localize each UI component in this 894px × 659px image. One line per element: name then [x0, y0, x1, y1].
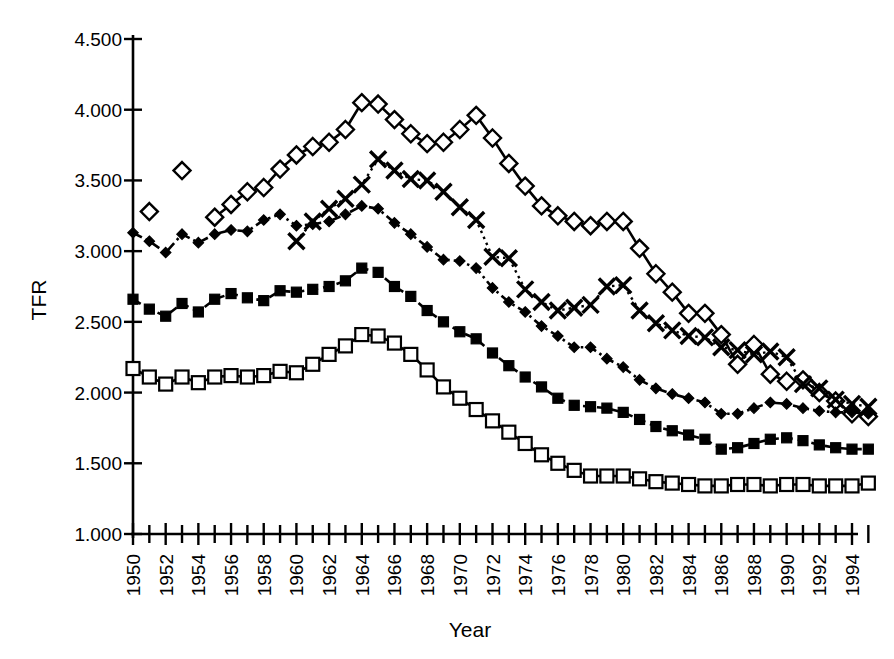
data-point-filled-square [389, 282, 399, 292]
data-point-open-square [192, 376, 205, 389]
x-tick-label: 1960 [286, 554, 307, 596]
data-point-open-square [290, 366, 303, 379]
data-point-cross [779, 349, 795, 365]
data-point-filled-square [455, 327, 465, 337]
chart-container: 4.5004.0003.5003.0002.5002.0001.5001.000… [0, 0, 894, 659]
x-tick-label: 1964 [352, 554, 373, 597]
x-tick-label: 1956 [221, 554, 242, 596]
data-point-open-square [159, 378, 172, 391]
x-tick-label: 1986 [711, 554, 732, 596]
data-point-cross [664, 322, 680, 338]
data-point-filled-square [700, 434, 710, 444]
data-point-filled-square [504, 361, 514, 371]
y-tick-label: 4.500 [74, 29, 122, 50]
data-point-open-square [698, 479, 711, 492]
data-point-open-square [225, 369, 238, 382]
data-point-open-diamond [304, 138, 321, 155]
x-axis-title: Year [449, 618, 491, 641]
data-point-filled-square [357, 263, 367, 273]
x-tick-label: 1958 [254, 554, 275, 596]
x-tick-label: 1994 [842, 554, 863, 597]
data-point-filled-diamond [830, 407, 840, 417]
data-point-open-diamond [762, 366, 779, 383]
data-point-filled-square [716, 444, 726, 454]
x-tick-label: 1952 [156, 554, 177, 596]
data-point-open-square [437, 380, 450, 393]
data-point-open-square [404, 348, 417, 361]
data-point-filled-square [635, 414, 645, 424]
x-tick-label: 1950 [123, 554, 144, 596]
data-point-open-square [846, 479, 859, 492]
data-point-filled-square [226, 289, 236, 299]
data-point-filled-square [733, 443, 743, 453]
data-point-open-square [421, 363, 434, 376]
data-point-filled-square [814, 440, 824, 450]
data-point-open-square [600, 470, 613, 483]
y-tick-label: 1.000 [74, 524, 122, 545]
x-tick-label: 1988 [744, 554, 765, 596]
x-tick-label: 1970 [450, 554, 471, 596]
data-point-filled-diamond [324, 216, 334, 226]
x-tick-label: 1972 [483, 554, 504, 596]
data-point-filled-square [618, 407, 628, 417]
data-point-filled-square [537, 382, 547, 392]
data-point-open-square [470, 403, 483, 416]
data-point-cross [419, 172, 435, 188]
x-tick-label: 1982 [646, 554, 667, 596]
data-point-cross [321, 201, 337, 217]
data-point-filled-diamond [357, 201, 367, 211]
data-point-filled-square [275, 286, 285, 296]
data-point-filled-square [863, 444, 873, 454]
y-tick-label: 2.000 [74, 383, 122, 404]
data-point-open-square [372, 330, 385, 343]
data-point-filled-square [847, 444, 857, 454]
x-tick-label: 1968 [417, 554, 438, 596]
data-point-open-square [535, 448, 548, 461]
data-point-filled-square [373, 267, 383, 277]
data-point-open-square [666, 477, 679, 490]
data-point-open-square [274, 365, 287, 378]
data-point-filled-square [422, 306, 432, 316]
data-point-filled-diamond [781, 399, 791, 409]
data-point-open-diamond [549, 207, 566, 224]
data-point-cross [386, 163, 402, 179]
data-point-open-square [731, 478, 744, 491]
data-point-filled-square [406, 291, 416, 301]
x-tick-label: 1954 [188, 554, 209, 597]
data-point-filled-diamond [765, 397, 775, 407]
x-tick-label: 1980 [613, 554, 634, 596]
data-point-open-square [813, 479, 826, 492]
data-point-open-square [764, 479, 777, 492]
data-point-filled-square [602, 403, 612, 413]
data-point-cross [697, 329, 713, 345]
data-point-cross [435, 184, 451, 200]
data-point-filled-square [340, 276, 350, 286]
data-point-filled-diamond [602, 353, 612, 363]
data-point-cross [632, 303, 648, 319]
series-filled-diamond-series [128, 201, 874, 419]
data-point-open-diamond [353, 94, 370, 111]
data-point-cross [468, 212, 484, 228]
data-point-filled-diamond [275, 209, 285, 219]
data-point-filled-diamond [177, 229, 187, 239]
data-point-filled-square [242, 293, 252, 303]
data-point-cross [403, 171, 419, 187]
data-point-filled-diamond [128, 228, 138, 238]
data-point-cross [534, 294, 550, 310]
data-point-open-square [796, 478, 809, 491]
x-tick-label: 1984 [679, 554, 700, 597]
data-point-filled-diamond [308, 219, 318, 229]
data-point-filled-diamond [210, 229, 220, 239]
data-point-cross [337, 191, 353, 207]
data-point-open-diamond [778, 373, 795, 390]
data-point-open-square [355, 328, 368, 341]
x-tick-label: 1990 [777, 554, 798, 596]
data-point-filled-square [798, 436, 808, 446]
data-point-filled-square [324, 282, 334, 292]
data-point-filled-diamond [651, 383, 661, 393]
data-point-filled-square [667, 426, 677, 436]
data-point-open-square [617, 470, 630, 483]
data-point-cross [354, 177, 370, 193]
data-point-filled-square [488, 348, 498, 358]
data-point-open-square [453, 392, 466, 405]
